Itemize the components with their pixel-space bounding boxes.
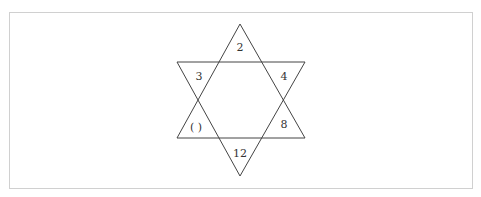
hexagram-star: 2 3 4 ( ) 8 12 <box>0 0 481 197</box>
cell-lower-left-blank: ( ) <box>190 121 202 134</box>
cell-upper-left-value: 3 <box>196 70 203 83</box>
cell-bottom-value: 12 <box>233 147 247 160</box>
cell-top-value: 2 <box>237 41 244 54</box>
cell-upper-right-value: 4 <box>281 70 288 83</box>
cell-lower-right-value: 8 <box>281 118 288 131</box>
